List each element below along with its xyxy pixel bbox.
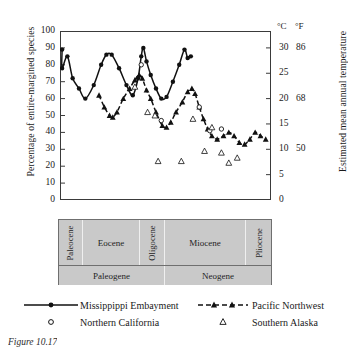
data-point-filled-triangle	[226, 130, 232, 135]
chart-legend: Missippippi EmbaymentPacific NorthwestNo…	[8, 299, 338, 333]
data-point-filled-circle	[189, 54, 193, 58]
legend-item-pacific-northwest: Pacific Northwest	[194, 299, 324, 311]
timescale-epoch-label: Oligocene	[147, 225, 157, 260]
y-tick-label: 10	[29, 178, 55, 188]
celsius-tick-label: 5	[279, 170, 293, 180]
legend-item-missippippi-embayment: Missippippi Embayment	[22, 299, 179, 311]
data-point-open-triangle	[226, 160, 232, 165]
data-point-filled-circle	[92, 83, 96, 87]
y-tick-label: 20	[29, 161, 55, 171]
data-point-filled-triangle	[201, 116, 207, 121]
timescale-epoch-oligocene: Oligocene	[140, 220, 165, 265]
legend-label: Pacific Northwest	[252, 300, 324, 311]
series-line-dashed	[99, 75, 266, 145]
legend-symbol-open-circle	[22, 316, 80, 328]
timescale-period-neogene: Neogene	[165, 266, 271, 285]
legend-label: Southern Alaska	[252, 317, 318, 328]
data-point-filled-circle	[131, 93, 135, 97]
data-point-filled-triangle	[168, 119, 174, 124]
timescale-period-label: Paleogene	[93, 271, 130, 281]
y2-axis-title: Estimated mean annual temperature	[337, 12, 348, 192]
y-tick-label: 60	[29, 94, 55, 104]
data-point-filled-triangle	[236, 140, 242, 145]
celsius-tick-label: 10	[279, 144, 293, 154]
data-point-filled-circle	[164, 95, 168, 99]
data-point-filled-circle	[83, 96, 87, 100]
y-tick-label: 70	[29, 77, 55, 87]
timescale-epoch-label: Pliocene	[254, 228, 264, 258]
celsius-unit-label: °C	[277, 22, 287, 31]
y-tick-label: 80	[29, 60, 55, 70]
data-point-open-triangle	[202, 148, 208, 153]
data-point-open-circle	[139, 63, 143, 67]
data-point-filled-triangle	[179, 99, 185, 104]
y-tick-label: 30	[29, 144, 55, 154]
data-point-filled-circle	[171, 80, 175, 84]
data-point-filled-triangle	[192, 91, 198, 96]
timescale-epoch-row: PaleoceneEoceneOligoceneMiocenePliocene	[59, 220, 271, 265]
timescale-period-label: Neogene	[202, 271, 234, 281]
celsius-tick-label: 0	[279, 195, 293, 205]
data-point-filled-triangle	[136, 72, 142, 77]
data-point-filled-circle	[124, 83, 128, 87]
series-pacific-northwest	[96, 72, 268, 147]
legend-item-southern-alaska: Southern Alaska	[194, 316, 318, 328]
data-point-filled-circle	[149, 73, 153, 77]
timescale-period-paleogene: Paleogene	[59, 266, 165, 285]
timescale-epoch-pliocene: Pliocene	[246, 220, 271, 265]
data-point-filled-circle	[139, 54, 143, 58]
data-point-filled-circle	[182, 47, 186, 51]
data-point-open-triangle	[219, 150, 225, 155]
celsius-tick-label: 30	[279, 43, 293, 53]
legend-symbol-solid-line-filled-circle	[22, 299, 80, 311]
data-point-filled-circle	[177, 63, 181, 67]
y-tick-label: 90	[29, 43, 55, 53]
data-point-open-triangle	[234, 155, 240, 160]
data-point-filled-triangle	[189, 86, 195, 91]
data-point-open-triangle	[155, 158, 161, 163]
celsius-tick-label: 15	[279, 119, 293, 129]
legend-label: Missippippi Embayment	[80, 300, 179, 311]
data-point-open-circle	[219, 127, 223, 131]
timescale-period-row: PaleogeneNeogene	[59, 265, 271, 285]
data-point-filled-circle	[60, 66, 64, 70]
y-tick-label: 100	[29, 26, 55, 36]
data-point-filled-triangle	[96, 92, 102, 97]
data-point-filled-triangle	[114, 109, 120, 114]
timescale-epoch-label: Miocene	[189, 238, 221, 248]
data-point-filled-triangle	[101, 104, 107, 109]
data-point-filled-triangle	[209, 133, 215, 138]
chart-canvas	[60, 31, 271, 200]
data-point-filled-triangle	[144, 87, 150, 92]
data-point-filled-circle	[154, 86, 158, 90]
fahrenheit-tick-label: 68	[296, 94, 312, 104]
data-point-open-triangle	[145, 109, 151, 114]
data-point-filled-circle	[109, 52, 113, 56]
data-point-filled-triangle	[148, 96, 154, 101]
timescale-epoch-label: Eocene	[98, 238, 124, 248]
data-point-open-triangle	[178, 158, 184, 163]
data-point-filled-circle	[141, 46, 145, 50]
timescale-epoch-paleocene: Paleocene	[59, 220, 83, 265]
y-tick-label: 40	[29, 127, 55, 137]
data-point-open-triangle	[190, 116, 196, 121]
fahrenheit-tick-label: 50	[296, 144, 312, 154]
y-tick-label: 50	[29, 111, 55, 121]
series-line-solid	[62, 48, 191, 100]
timescale-epoch-miocene: Miocene	[165, 220, 246, 265]
data-point-filled-triangle	[231, 133, 237, 138]
data-point-filled-circle	[104, 52, 108, 56]
data-point-filled-circle	[70, 76, 74, 80]
data-point-filled-circle	[99, 63, 103, 67]
data-point-filled-circle	[77, 86, 81, 90]
data-point-open-circle	[197, 105, 201, 109]
data-point-filled-circle	[65, 54, 69, 58]
data-point-filled-triangle	[221, 133, 227, 138]
data-point-filled-circle	[117, 66, 121, 70]
legend-item-northern-california: Northern California	[22, 316, 159, 328]
data-point-filled-circle	[60, 47, 64, 51]
fahrenheit-unit-label: °F	[295, 22, 304, 31]
data-point-filled-circle	[144, 59, 148, 63]
data-point-filled-circle	[159, 96, 163, 100]
